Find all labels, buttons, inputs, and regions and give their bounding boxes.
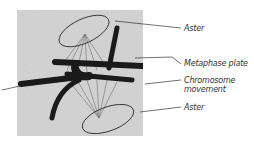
label-aster-top: Aster	[184, 24, 204, 33]
label-metaphase-plate: Metaphase plate	[184, 59, 248, 68]
label-chromosome-movement-line1: Chromosome	[184, 76, 235, 85]
leader-lines	[0, 0, 254, 144]
label-aster-bottom: Aster	[184, 103, 204, 112]
label-chromosome-movement-line2: movement	[184, 85, 226, 94]
